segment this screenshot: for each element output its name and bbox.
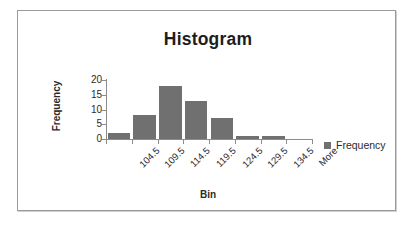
- x-axis-tick-mark: [235, 140, 236, 144]
- bar-slot: [183, 80, 209, 139]
- x-axis-tick-mark: [286, 140, 287, 144]
- bar-series: [106, 80, 312, 139]
- x-axis-tick-label: 129.5: [265, 145, 290, 170]
- y-axis-tick-label: 10: [80, 105, 102, 115]
- legend-label: Frequency: [336, 139, 386, 151]
- x-axis-tick-label: 109.5: [162, 145, 187, 170]
- x-axis-tick-label: 104.5: [137, 145, 162, 170]
- x-axis-title: Bin: [138, 189, 278, 200]
- x-axis-tick-label: 124.5: [240, 145, 265, 170]
- x-axis-tick-labels: 104.5109.5114.5119.5124.5129.5134.5More: [106, 145, 312, 185]
- bar: [159, 86, 182, 139]
- y-axis-tick-label: 5: [80, 119, 102, 129]
- bar-slot: [261, 80, 287, 139]
- chart-legend: Frequency: [324, 139, 386, 151]
- bar: [108, 133, 131, 139]
- bar: [236, 136, 259, 139]
- y-axis-tick-label: 0: [80, 134, 102, 144]
- bar: [133, 115, 156, 139]
- x-axis-tick-mark: [209, 140, 210, 144]
- bar-slot: [106, 80, 132, 139]
- y-axis-tick-label: 20: [80, 75, 102, 85]
- x-axis-tick-mark: [106, 140, 107, 144]
- bar-slot: [235, 80, 261, 139]
- y-axis-title: Frequency: [51, 72, 65, 140]
- x-axis-tick-mark: [158, 140, 159, 144]
- bar: [211, 118, 234, 139]
- bar-slot: [209, 80, 235, 139]
- bar: [262, 136, 285, 139]
- legend-swatch-icon: [324, 142, 331, 149]
- x-axis-tick-mark: [183, 140, 184, 144]
- bar-slot: [158, 80, 184, 139]
- y-axis-tick-label: 15: [80, 90, 102, 100]
- bar-slot: [286, 80, 312, 139]
- x-axis-tick-mark: [132, 140, 133, 144]
- x-axis-tick-label: 119.5: [214, 145, 238, 169]
- screenshot-root: Histogram Frequency 05101520 104.5109.51…: [0, 0, 414, 228]
- x-axis-tick-mark: [312, 140, 313, 144]
- chart-frame: Histogram Frequency 05101520 104.5109.51…: [17, 10, 396, 211]
- x-axis-tick-mark: [261, 140, 262, 144]
- x-axis-tick-label: 114.5: [188, 145, 212, 169]
- bar: [185, 101, 208, 139]
- bar-slot: [132, 80, 158, 139]
- plot-area: 05101520: [106, 80, 312, 139]
- x-axis-tick-label: 134.5: [291, 145, 316, 170]
- chart-title: Histogram: [78, 29, 338, 50]
